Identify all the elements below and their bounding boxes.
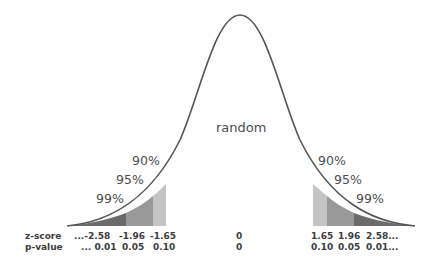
right-90-label: 90% xyxy=(318,153,346,168)
z-right-1.96: 1.96 xyxy=(338,231,360,241)
z-score-row-label: z-score xyxy=(25,231,61,241)
z-right-2.58: 2.58... xyxy=(366,231,398,241)
left-tail-90-region xyxy=(153,184,166,226)
right-95-label: 95% xyxy=(334,172,362,187)
p-value-row-label: p-value xyxy=(25,242,63,252)
p-left-0.01: ... 0.01 xyxy=(81,242,117,252)
p-left-0.05: 0.05 xyxy=(122,242,144,252)
p-right-0.05: 0.05 xyxy=(338,242,360,252)
p-center: 0 xyxy=(236,242,242,252)
right-tail-90-region xyxy=(313,184,327,226)
p-left-0.10: 0.10 xyxy=(153,242,175,252)
z-left-1.65: -1.65 xyxy=(150,231,176,241)
z-left-2.58: ...-2.58 xyxy=(74,231,110,241)
z-left-1.96: -1.96 xyxy=(119,231,145,241)
left-90-label: 90% xyxy=(132,153,160,168)
random-label: random xyxy=(216,120,266,135)
p-right-0.01: 0.01... xyxy=(366,242,398,252)
left-95-label: 95% xyxy=(116,172,144,187)
right-99-label: 99% xyxy=(356,191,384,206)
left-99-label: 99% xyxy=(96,191,124,206)
z-right-1.65: 1.65 xyxy=(311,231,333,241)
p-right-0.10: 0.10 xyxy=(311,242,333,252)
left-tail-95-region xyxy=(126,196,153,226)
z-center: 0 xyxy=(236,231,242,241)
right-tail-95-region xyxy=(327,196,354,226)
